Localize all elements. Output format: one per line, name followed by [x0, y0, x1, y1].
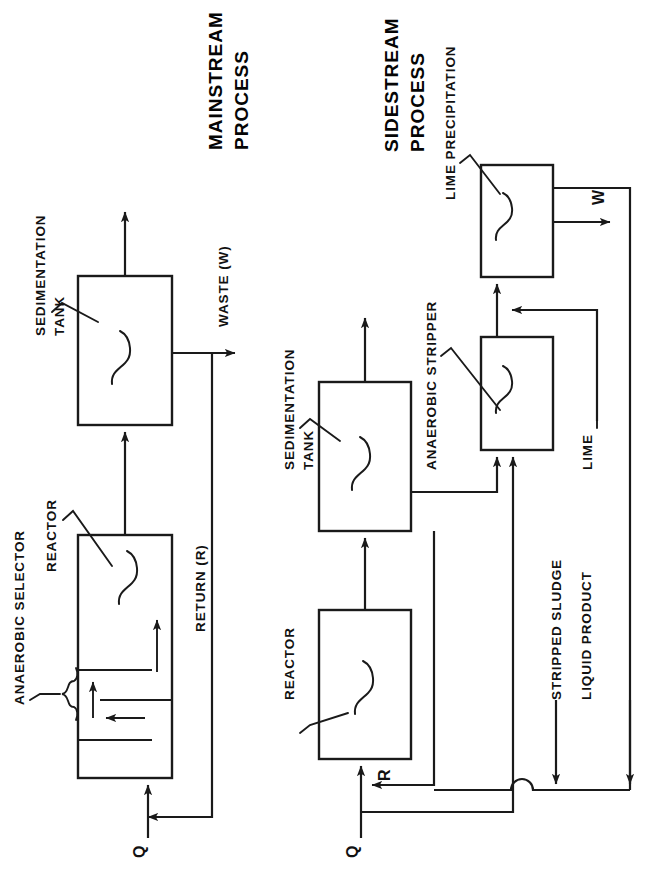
mainstream-anaerobic-selector-leader	[30, 694, 60, 700]
sidestream-sedimentation-tank-label-line1: SEDIMENTATION	[282, 349, 297, 470]
sidestream-anaerobic-stripper-label: ANAEROBIC STRIPPER	[424, 301, 439, 470]
sidestream-sedimentation-tank-label-line2: TANK	[301, 430, 316, 470]
sidestream-section: SIDESTREAM PROCESS LIME PRECIPITATION W …	[282, 17, 630, 858]
sidestream-return-label: R	[376, 769, 393, 781]
sidestream-lime-label: LIME	[580, 434, 595, 470]
sidestream-title-line2: PROCESS	[407, 52, 428, 152]
mainstream-sedimentation-tank-box	[78, 276, 172, 425]
mainstream-waste-label: WASTE (W)	[216, 245, 231, 327]
mainstream-sedimentation-tank-label-line2: TANK	[52, 296, 67, 336]
sidestream-waste-label: W	[590, 189, 607, 205]
sidestream-liquid-product-label: LIQUID PRODUCT	[579, 571, 594, 700]
mainstream-title-line2: PROCESS	[231, 50, 252, 150]
sidestream-stripped-sludge-label: STRIPPED SLUDGE	[549, 559, 564, 700]
mainstream-influent-label: Q	[131, 846, 148, 858]
mainstream-reactor-label: REACTOR	[44, 499, 59, 572]
sidestream-lime-precipitation-label: LIME PRECIPITATION	[443, 46, 458, 200]
mainstream-anaerobic-selector-label: ANAEROBIC SELECTOR	[12, 530, 27, 705]
sidestream-sedimentation-tank-box	[319, 382, 411, 531]
mainstream-return-label: RETURN (R)	[193, 544, 208, 632]
mainstream-section: MAINSTREAM PROCESS SEDIMENTATION TANK WA…	[12, 11, 252, 858]
process-flow-diagram: MAINSTREAM PROCESS SEDIMENTATION TANK WA…	[0, 0, 663, 883]
sidestream-title-line1: SIDESTREAM	[381, 17, 402, 152]
mainstream-sedimentation-tank-label-line1: SEDIMENTATION	[33, 215, 48, 336]
sidestream-reactor-box	[319, 610, 411, 759]
mainstream-anaerobic-selector-brace	[62, 668, 77, 720]
diagram-page: MAINSTREAM PROCESS SEDIMENTATION TANK WA…	[0, 0, 663, 883]
sidestream-anaerobic-stripper-box	[481, 337, 553, 450]
sidestream-influent-label: Q	[344, 846, 361, 858]
mainstream-title-line1: MAINSTREAM	[205, 11, 226, 150]
sidestream-reactor-label: REACTOR	[282, 627, 297, 700]
sidestream-title: SIDESTREAM PROCESS	[381, 17, 428, 152]
sidestream-bottom-header-with-hop	[434, 779, 630, 790]
mainstream-title: MAINSTREAM PROCESS	[205, 11, 252, 150]
